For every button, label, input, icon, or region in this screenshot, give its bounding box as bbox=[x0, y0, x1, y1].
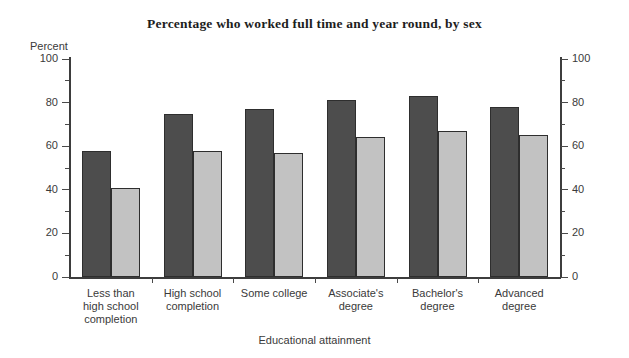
y-tick-left-80 bbox=[62, 102, 69, 103]
y-tick-label-left-100: 100 bbox=[24, 53, 58, 64]
bar-male-4 bbox=[409, 96, 438, 277]
y-tick-right-0 bbox=[561, 277, 568, 278]
y-tick-left-20 bbox=[62, 233, 69, 234]
bar-female-2 bbox=[274, 153, 303, 277]
y-tick-label-right-40: 40 bbox=[572, 184, 606, 195]
bar-male-5 bbox=[490, 107, 519, 277]
y-tick-right-40 bbox=[561, 189, 568, 190]
y-tick-right-20 bbox=[561, 233, 568, 234]
y-tick-label-right-0: 0 bbox=[572, 271, 606, 282]
x-axis-title: Educational attainment bbox=[0, 334, 629, 346]
x-category-label-line: High school bbox=[152, 287, 234, 300]
y-tick-right-30 bbox=[561, 211, 565, 212]
y-tick-label-left-40: 40 bbox=[24, 184, 58, 195]
y-tick-left-70 bbox=[65, 124, 69, 125]
y-tick-left-40 bbox=[62, 189, 69, 190]
x-tick-3 bbox=[397, 278, 398, 283]
x-category-label-3: Associate'sdegree bbox=[315, 287, 397, 313]
bar-female-1 bbox=[193, 151, 222, 277]
x-tick-4 bbox=[478, 278, 479, 283]
y-tick-label-right-60: 60 bbox=[572, 140, 606, 151]
y-tick-left-0 bbox=[62, 277, 69, 278]
x-category-label-line: degree bbox=[397, 300, 479, 313]
x-category-label-1: High schoolcompletion bbox=[152, 287, 234, 313]
bar-female-3 bbox=[356, 137, 385, 277]
y-tick-right-80 bbox=[561, 102, 568, 103]
y-tick-right-70 bbox=[561, 124, 565, 125]
y-axis-title: Percent bbox=[30, 40, 68, 52]
y-tick-label-left-80: 80 bbox=[24, 97, 58, 108]
bar-female-5 bbox=[519, 135, 548, 277]
x-category-label-line: Bachelor's bbox=[397, 287, 479, 300]
plot-area bbox=[70, 59, 560, 277]
x-category-label-4: Bachelor'sdegree bbox=[397, 287, 479, 313]
y-tick-label-right-80: 80 bbox=[572, 97, 606, 108]
y-tick-left-50 bbox=[65, 168, 69, 169]
x-category-label-line: completion bbox=[152, 300, 234, 313]
y-tick-label-right-20: 20 bbox=[572, 227, 606, 238]
x-category-label-line: degree bbox=[315, 300, 397, 313]
x-category-label-5: Advanceddegree bbox=[478, 287, 560, 313]
bar-male-3 bbox=[327, 100, 356, 277]
bar-male-2 bbox=[245, 109, 274, 277]
y-tick-right-90 bbox=[561, 80, 565, 81]
y-tick-right-10 bbox=[561, 255, 565, 256]
y-tick-label-left-60: 60 bbox=[24, 140, 58, 151]
y-tick-label-left-0: 0 bbox=[24, 271, 58, 282]
x-category-label-line: high school bbox=[70, 300, 152, 313]
bar-male-0 bbox=[82, 151, 111, 277]
bar-male-1 bbox=[164, 114, 193, 278]
x-category-label-line: Associate's bbox=[315, 287, 397, 300]
y-tick-right-60 bbox=[561, 146, 568, 147]
x-category-label-line: completion bbox=[70, 313, 152, 326]
x-tick-1 bbox=[233, 278, 234, 283]
bar-female-4 bbox=[438, 131, 467, 277]
y-tick-left-60 bbox=[62, 146, 69, 147]
x-category-label-line: Some college bbox=[233, 287, 315, 300]
y-tick-right-50 bbox=[561, 168, 565, 169]
y-tick-left-90 bbox=[65, 80, 69, 81]
y-tick-left-10 bbox=[65, 255, 69, 256]
bar-female-0 bbox=[111, 188, 140, 277]
x-tick-2 bbox=[315, 278, 316, 283]
chart-title: Percentage who worked full time and year… bbox=[0, 16, 629, 32]
x-category-label-2: Some college bbox=[233, 287, 315, 300]
x-category-label-line: Advanced bbox=[478, 287, 560, 300]
y-tick-right-100 bbox=[561, 59, 568, 60]
y-tick-label-right-100: 100 bbox=[572, 53, 606, 64]
x-tick-0 bbox=[152, 278, 153, 283]
x-category-label-0: Less thanhigh schoolcompletion bbox=[70, 287, 152, 326]
x-category-label-line: Less than bbox=[70, 287, 152, 300]
y-tick-left-30 bbox=[65, 211, 69, 212]
x-category-label-line: degree bbox=[478, 300, 560, 313]
y-tick-label-left-20: 20 bbox=[24, 227, 58, 238]
y-tick-left-100 bbox=[62, 59, 69, 60]
